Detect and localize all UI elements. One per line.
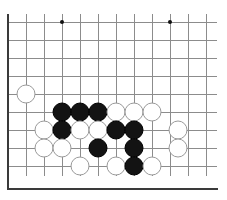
grid-line-vertical <box>116 14 117 176</box>
board-border-left <box>7 14 9 188</box>
stone-white-a[interactable] <box>17 85 36 104</box>
go-board[interactable] <box>0 0 227 200</box>
go-board-surface[interactable] <box>0 0 227 200</box>
grid-line-vertical <box>206 14 207 176</box>
grid-line-horizontal <box>8 94 217 95</box>
star-point-2-icon <box>168 20 172 24</box>
stone-white-c2[interactable] <box>71 121 90 140</box>
stone-white-e6[interactable] <box>143 157 162 176</box>
stone-white-e2[interactable] <box>71 157 90 176</box>
grid-line-horizontal <box>8 40 217 41</box>
stone-white-c7[interactable] <box>169 121 188 140</box>
stone-black-e5[interactable] <box>125 157 144 176</box>
grid-line-horizontal <box>8 22 217 23</box>
stone-white-c0[interactable] <box>35 121 54 140</box>
grid-line-horizontal <box>8 76 217 77</box>
stone-black-c4[interactable] <box>107 121 126 140</box>
stone-black-d5[interactable] <box>125 139 144 158</box>
stone-white-d7[interactable] <box>169 139 188 158</box>
stone-white-c3[interactable] <box>89 121 108 140</box>
stone-black-b3[interactable] <box>89 103 108 122</box>
stone-white-b4[interactable] <box>107 103 126 122</box>
stone-black-b1[interactable] <box>53 103 72 122</box>
board-border-bottom <box>7 188 218 190</box>
stone-white-d0[interactable] <box>35 139 54 158</box>
grid-line-vertical <box>188 14 189 176</box>
stone-black-c5[interactable] <box>125 121 144 140</box>
stone-white-d1[interactable] <box>53 139 72 158</box>
stone-white-b5[interactable] <box>125 103 144 122</box>
stone-black-c1[interactable] <box>53 121 72 140</box>
grid-line-horizontal <box>8 58 217 59</box>
stone-black-b2[interactable] <box>71 103 90 122</box>
grid-line-vertical <box>152 14 153 176</box>
stone-white-b6[interactable] <box>143 103 162 122</box>
stone-black-d3[interactable] <box>89 139 108 158</box>
stone-white-e4[interactable] <box>107 157 126 176</box>
star-point-1-icon <box>60 20 64 24</box>
grid-line-vertical <box>80 14 81 176</box>
